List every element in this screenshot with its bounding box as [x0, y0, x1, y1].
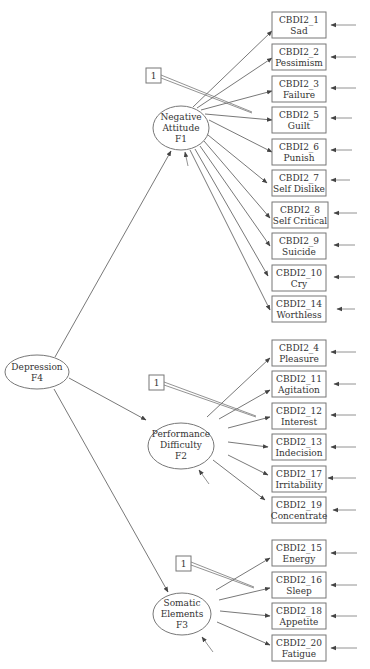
indicator-cry: CBDI2_10 Cry: [272, 265, 326, 291]
svg-text:Depression: Depression: [11, 362, 62, 372]
fixed-loading-label-f2: 1: [154, 378, 160, 388]
svg-text:CBDI2_20: CBDI2_20: [276, 638, 322, 649]
svg-text:CBDI2_1: CBDI2_1: [279, 15, 319, 26]
indicator-punish: CBDI2_6 Punish: [272, 139, 326, 165]
svg-text:Energy: Energy: [283, 554, 317, 564]
svg-text:CBDI2_8: CBDI2_8: [280, 205, 320, 216]
svg-text:CBDI2_7: CBDI2_7: [279, 173, 319, 184]
svg-text:Indecision: Indecision: [275, 448, 322, 458]
error-arrows: [328, 25, 357, 648]
second-order-paths: [54, 151, 171, 592]
svg-text:CBDI2_14: CBDI2_14: [276, 299, 322, 310]
svg-text:Suicide: Suicide: [282, 247, 316, 257]
svg-text:CBDI2_17: CBDI2_17: [276, 469, 322, 480]
svg-text:Pleasure: Pleasure: [279, 354, 319, 364]
svg-text:Somatic: Somatic: [163, 598, 200, 608]
svg-text:Fatigue: Fatigue: [282, 649, 316, 659]
disturbance-arrows: [185, 152, 213, 652]
cfa-diagram: 1 1 1: [0, 0, 370, 669]
indicator-self-critical: CBDI2_8 Self Critical: [272, 202, 328, 228]
indicator-concentrate: CBDI2_19 Concentrate: [271, 497, 328, 523]
svg-text:CBDI2_10: CBDI2_10: [276, 268, 322, 279]
factor-performance-difficulty-f2: Performance Difficulty F2: [148, 423, 214, 469]
f1-loadings: [190, 31, 272, 310]
svg-text:Self Dislike: Self Dislike: [273, 184, 325, 194]
svg-text:CBDI2_12: CBDI2_12: [276, 406, 322, 417]
f2-fixed-loading: 1: [149, 375, 256, 417]
svg-text:Sleep: Sleep: [286, 586, 312, 596]
svg-text:Interest: Interest: [281, 417, 318, 427]
fixed-loading-label-f1: 1: [151, 71, 157, 81]
indicator-fatigue: CBDI2_20 Fatigue: [272, 635, 326, 661]
svg-text:CBDI2_5: CBDI2_5: [279, 110, 319, 121]
indicator-agitation: CBDI2_11 Agitation: [272, 371, 326, 397]
svg-text:CBDI2_9: CBDI2_9: [279, 236, 319, 247]
indicator-sleep: CBDI2_16 Sleep: [272, 572, 326, 598]
svg-text:CBDI2_19: CBDI2_19: [276, 500, 322, 511]
svg-text:Worthless: Worthless: [276, 310, 322, 320]
svg-text:Agitation: Agitation: [277, 385, 320, 395]
svg-text:Punish: Punish: [284, 153, 315, 163]
indicator-worthless: CBDI2_14 Worthless: [272, 296, 326, 322]
svg-text:Concentrate: Concentrate: [271, 511, 328, 521]
svg-text:Guilt: Guilt: [288, 121, 311, 131]
svg-text:F2: F2: [175, 451, 187, 461]
svg-text:CBDI2_3: CBDI2_3: [279, 79, 319, 90]
svg-text:Negative: Negative: [160, 112, 201, 122]
factor-depression-f4: Depression F4: [5, 355, 69, 389]
factor-negative-attitude-f1: Negative Attitude F1: [153, 106, 209, 150]
svg-text:CBDI2_13: CBDI2_13: [276, 437, 322, 448]
svg-text:Appetite: Appetite: [279, 617, 319, 627]
svg-text:Performance: Performance: [152, 429, 210, 439]
svg-text:CBDI2_2: CBDI2_2: [279, 47, 319, 58]
indicator-sad: CBDI2_1 Sad: [272, 12, 326, 38]
svg-text:CBDI2_4: CBDI2_4: [279, 343, 319, 354]
fixed-loading-label-f3: 1: [181, 559, 187, 569]
svg-text:Cry: Cry: [291, 279, 308, 289]
svg-text:Sad: Sad: [290, 26, 308, 36]
svg-text:CBDI2_18: CBDI2_18: [276, 606, 322, 617]
factor-somatic-elements-f3: Somatic Elements F3: [153, 593, 211, 635]
svg-text:CBDI2_16: CBDI2_16: [276, 575, 322, 586]
indicator-suicide: CBDI2_9 Suicide: [272, 233, 326, 259]
f3-fixed-loading: 1: [176, 556, 254, 588]
indicator-pleasure: CBDI2_4 Pleasure: [272, 340, 326, 366]
f2-loadings: [207, 358, 270, 500]
svg-text:CBDI2_11: CBDI2_11: [276, 374, 322, 385]
indicator-interest: CBDI2_12 Interest: [272, 403, 326, 429]
svg-text:CBDI2_15: CBDI2_15: [276, 543, 322, 554]
indicator-energy: CBDI2_15 Energy: [272, 540, 326, 566]
indicator-irritability: CBDI2_17 Irritability: [272, 466, 326, 492]
svg-text:F4: F4: [31, 373, 43, 383]
indicator-pessimism: CBDI2_2 Pessimism: [272, 44, 326, 70]
indicator-failure: CBDI2_3 Failure: [272, 76, 326, 102]
svg-text:CBDI2_6: CBDI2_6: [279, 142, 319, 153]
svg-text:Irritability: Irritability: [275, 480, 323, 490]
svg-text:Pessimism: Pessimism: [275, 58, 323, 68]
indicator-appetite: CBDI2_18 Appetite: [272, 603, 326, 629]
svg-text:Elements: Elements: [161, 609, 204, 619]
indicator-guilt: CBDI2_5 Guilt: [272, 107, 326, 133]
svg-text:Self Critical: Self Critical: [273, 216, 328, 226]
svg-text:F3: F3: [176, 620, 188, 630]
svg-text:F1: F1: [175, 134, 187, 144]
indicator-self-dislike: CBDI2_7 Self Dislike: [272, 170, 326, 196]
indicator-indecision: CBDI2_13 Indecision: [272, 434, 326, 460]
svg-text:Failure: Failure: [283, 90, 315, 100]
svg-text:Attitude: Attitude: [162, 123, 200, 133]
svg-text:Difficulty: Difficulty: [160, 440, 203, 450]
f3-loadings: [216, 558, 270, 645]
